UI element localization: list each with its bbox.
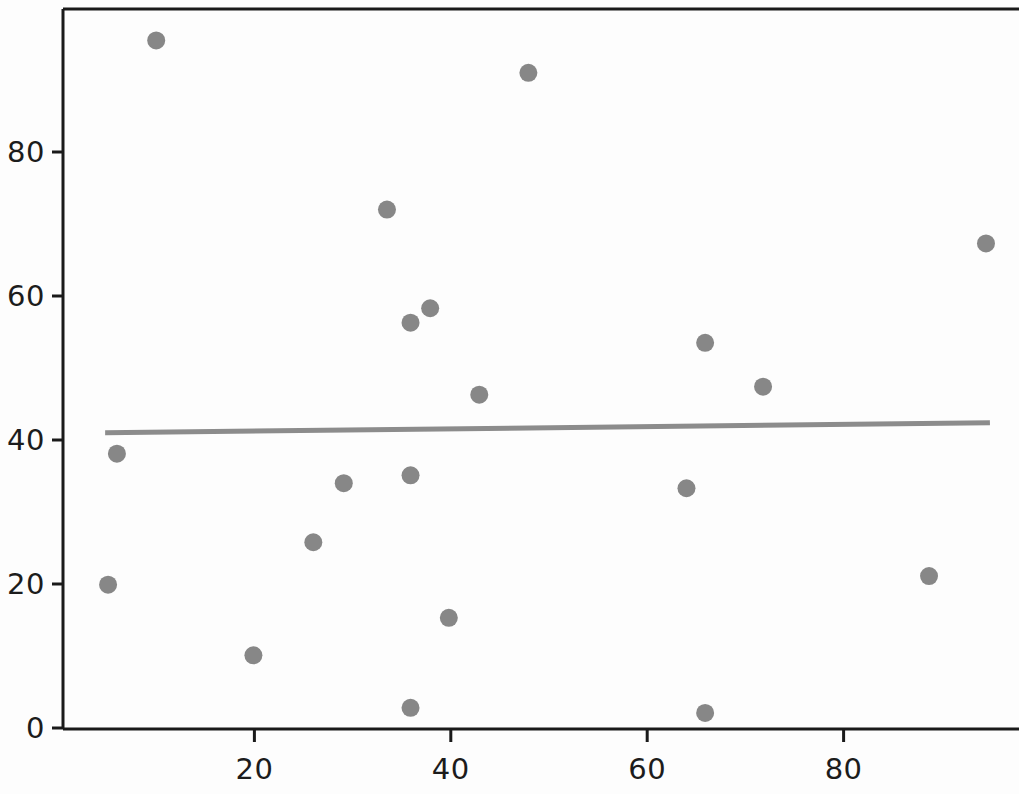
x-tick-label: 20	[235, 752, 273, 786]
data-point	[304, 533, 322, 551]
y-tick-label: 40	[0, 423, 45, 457]
data-point	[402, 466, 420, 484]
regression-line	[105, 423, 990, 433]
data-point	[108, 445, 126, 463]
data-point	[378, 201, 396, 219]
data-point	[244, 646, 262, 664]
plot-canvas	[0, 0, 1019, 794]
data-point	[754, 378, 772, 396]
x-tick-label: 40	[432, 752, 470, 786]
data-point	[147, 31, 165, 49]
data-point	[677, 479, 695, 497]
data-point	[470, 386, 488, 404]
y-tick-label: 20	[0, 567, 45, 601]
data-point	[440, 609, 458, 627]
axes-frame	[63, 9, 1019, 729]
x-tick-label: 80	[825, 752, 863, 786]
trend-line	[105, 423, 990, 433]
tick-marks	[52, 152, 844, 742]
data-point	[421, 299, 439, 317]
data-point	[402, 314, 420, 332]
y-tick-label: 0	[0, 711, 45, 745]
data-point	[696, 334, 714, 352]
scatter-points	[99, 31, 995, 721]
data-point	[696, 704, 714, 722]
y-tick-label: 80	[0, 135, 45, 169]
data-point	[335, 474, 353, 492]
data-point	[977, 234, 995, 252]
data-point	[920, 567, 938, 585]
data-point	[99, 576, 117, 594]
data-point	[402, 699, 420, 717]
x-tick-label: 60	[628, 752, 666, 786]
y-tick-label: 60	[0, 279, 45, 313]
data-point	[519, 64, 537, 82]
scatter-plot-figure: 020406080 20406080	[0, 0, 1019, 794]
